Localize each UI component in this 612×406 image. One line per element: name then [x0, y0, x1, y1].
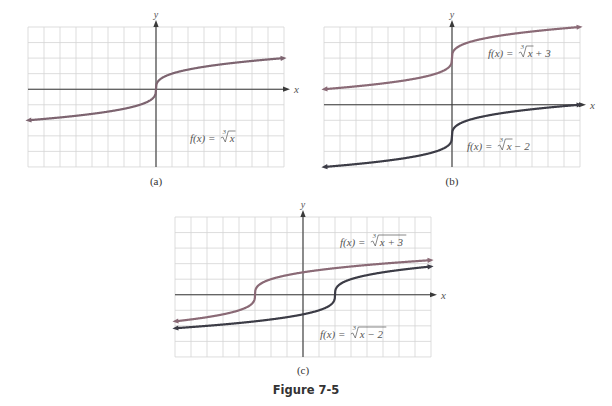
panel-a: xyf(x) = 3x	[25, 9, 299, 167]
y-axis-arrow	[300, 210, 305, 217]
y-axis-arrow	[449, 20, 454, 27]
curve-arrow-right	[427, 264, 433, 269]
panel-label-b: (b)	[446, 175, 459, 188]
curve-arrow-right	[427, 258, 433, 263]
function-label: f(x) =	[320, 328, 345, 341]
radical-index: 3	[372, 232, 377, 239]
y-axis-arrow	[153, 20, 158, 27]
radical-index: 3	[520, 43, 525, 50]
curve-arrow-left	[321, 86, 327, 91]
x-axis-arrow	[430, 292, 437, 297]
curve-arrow-left	[172, 318, 178, 323]
radicand: x	[506, 140, 512, 152]
x-axis-label: x	[293, 83, 299, 95]
curve-arrow-left	[25, 117, 31, 122]
panel-label-a: (a)	[150, 175, 163, 188]
panel-c: xyf(x) = 3x + 3f(x) = 3x − 2	[172, 199, 446, 357]
curve-arrow-right	[576, 25, 582, 30]
curve-arrow-left	[321, 164, 327, 169]
label-suffix: − 2	[514, 140, 530, 152]
function-label: f(x) =	[190, 132, 215, 145]
x-axis-arrow	[283, 87, 290, 92]
function-label: f(x) =	[467, 140, 492, 153]
function-label: f(x) =	[340, 236, 365, 249]
radical-index: 3	[352, 324, 357, 331]
y-axis-label: y	[300, 199, 306, 210]
label-suffix: + 3	[535, 47, 551, 59]
radicand: x	[527, 47, 533, 59]
x-axis-label: x	[589, 99, 595, 111]
y-axis-label: y	[153, 9, 159, 20]
function-label: f(x) =	[488, 47, 513, 60]
panel-label-c: (c)	[297, 364, 310, 377]
radicand: x + 3	[379, 236, 404, 248]
x-axis-label: x	[440, 289, 446, 301]
radical-index: 3	[222, 128, 227, 135]
radicand: x − 2	[359, 328, 384, 340]
figure-7-5: xyf(x) = 3x xyf(x) = 3x + 3f(x) = 3x − 2…	[0, 0, 612, 406]
radical-index: 3	[499, 136, 504, 143]
curve-arrow-right	[280, 56, 286, 61]
radicand: x	[229, 132, 235, 144]
figure-title: Figure 7-5	[273, 383, 339, 397]
panel-b: xyf(x) = 3x + 3f(x) = 3x − 2	[321, 9, 595, 169]
y-axis-label: y	[449, 9, 455, 20]
